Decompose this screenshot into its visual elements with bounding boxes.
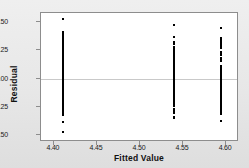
x-tick-label: 4.55	[176, 144, 189, 151]
data-point	[62, 18, 64, 20]
x-tick-label: 4.60	[219, 144, 232, 151]
data-point	[220, 47, 222, 49]
y-tick-label: 0.25	[0, 46, 8, 53]
y-tick-label: 0.00	[0, 74, 8, 81]
data-point	[220, 27, 222, 29]
x-tick-label: 4.50	[133, 144, 146, 151]
data-point	[220, 113, 222, 115]
data-point	[62, 121, 64, 123]
plot-area	[41, 13, 237, 140]
zero-reference-line	[41, 79, 237, 80]
data-point	[62, 114, 64, 116]
y-tick-label: -0.25	[0, 102, 8, 109]
data-point	[173, 43, 175, 45]
data-point	[173, 36, 175, 38]
data-point	[173, 117, 175, 119]
residual-plot-figure: 0.500.250.00-0.25-0.50 4.404.454.504.554…	[0, 0, 249, 168]
data-point	[62, 131, 64, 133]
y-axis-title: Residual	[9, 49, 19, 119]
x-tick-label: 4.45	[90, 144, 103, 151]
plot-frame	[40, 12, 238, 141]
data-point	[173, 112, 175, 114]
data-point	[173, 24, 175, 26]
data-point	[220, 120, 222, 122]
y-tick-label: -0.50	[0, 131, 8, 138]
y-tick-label: 0.50	[0, 18, 8, 25]
x-axis-title: Fitted Value	[40, 153, 238, 163]
x-tick-label: 4.40	[46, 144, 59, 151]
data-point	[220, 60, 222, 62]
